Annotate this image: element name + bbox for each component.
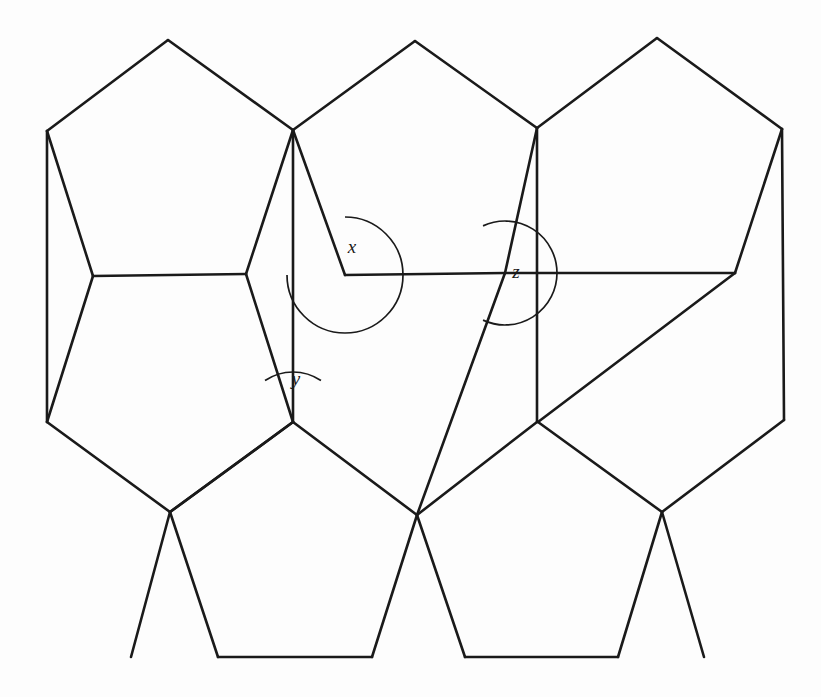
pentagon-tiling-svg: xyz <box>0 0 821 697</box>
angle-label-x: x <box>347 236 357 257</box>
angle-label-y: y <box>290 368 301 389</box>
angle-label-z: z <box>511 261 520 282</box>
pentagon-tiling-figure: xyz <box>0 0 821 697</box>
figure-background <box>0 0 821 697</box>
